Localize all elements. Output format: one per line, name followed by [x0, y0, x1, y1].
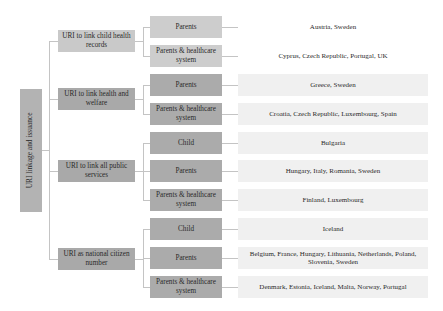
- actor-node: Parents: [150, 247, 222, 269]
- country-list: Hungary, Italy, Romania, Sweden: [238, 160, 428, 182]
- connector: [222, 143, 238, 144]
- actor-node: Parents: [150, 74, 222, 96]
- category-national-citizen-number: URI as national citizen number: [58, 248, 135, 270]
- connector: [42, 150, 49, 151]
- connector: [143, 27, 150, 28]
- actor-node: Parents & healthcare system: [150, 45, 222, 67]
- connector: [49, 99, 58, 100]
- connector: [143, 143, 144, 201]
- connector: [222, 114, 238, 115]
- root-label: URI linkage and issuance: [27, 113, 36, 189]
- country-list: Iceland: [238, 218, 428, 240]
- connector: [222, 200, 238, 201]
- connector: [143, 85, 150, 86]
- actor-node: Child: [150, 218, 222, 240]
- category-all-public-services: URI to link all public services: [58, 160, 135, 182]
- connector: [143, 85, 144, 115]
- actor-node: Parents & healthcare system: [150, 103, 222, 125]
- category-health-and-welfare: URI to link health and welfare: [58, 88, 135, 110]
- connector: [143, 287, 150, 288]
- country-list: Austria, Sweden: [238, 16, 428, 38]
- connector: [143, 200, 150, 201]
- connector: [135, 41, 143, 42]
- country-list: Croatia, Czech Republic, Luxembourg, Spa…: [238, 103, 428, 125]
- actor-node: Parents & healthcare system: [150, 276, 222, 298]
- country-list: Denmark, Estonia, Iceland, Malta, Norway…: [238, 276, 428, 298]
- connector: [143, 56, 150, 57]
- connector: [222, 258, 238, 259]
- connector: [222, 229, 238, 230]
- connector: [143, 258, 150, 259]
- country-list: Belgium, France, Hungary, Lithuania, Net…: [238, 247, 428, 269]
- connector: [49, 41, 58, 42]
- connector: [143, 171, 150, 172]
- category-child-health-records: URI to link child health records: [58, 30, 135, 52]
- country-list: Greece, Sweden: [238, 74, 428, 96]
- connector: [135, 171, 143, 172]
- connector: [143, 143, 150, 144]
- actor-node: Parents: [150, 16, 222, 38]
- connector: [222, 85, 238, 86]
- connector: [143, 114, 150, 115]
- connector: [222, 171, 238, 172]
- connector: [135, 259, 143, 260]
- actor-node: Parents & healthcare system: [150, 189, 222, 211]
- connector: [143, 27, 144, 57]
- connector: [222, 56, 238, 57]
- root-node: URI linkage and issuance: [20, 89, 42, 212]
- actor-node: Parents: [150, 160, 222, 182]
- country-list: Finland, Luxembourg: [238, 189, 428, 211]
- connector: [143, 229, 150, 230]
- connector: [222, 287, 238, 288]
- connector: [49, 41, 50, 260]
- connector: [135, 99, 143, 100]
- country-list: Cyprus, Czech Republic, Portugal, UK: [238, 45, 428, 67]
- country-list: Bulgaria: [238, 132, 428, 154]
- actor-node: Child: [150, 132, 222, 154]
- connector: [49, 259, 58, 260]
- connector: [49, 171, 58, 172]
- connector: [222, 27, 238, 28]
